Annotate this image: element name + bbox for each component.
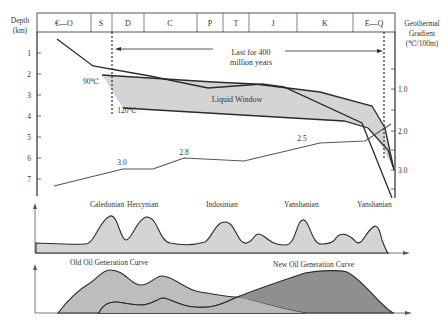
old-oil-curve-label: Old Oil Generation Curve — [70, 258, 149, 267]
burial-history-diagram: Depth (km) €—O S D C P T J K E—Q Geother… — [0, 0, 448, 327]
gradient-axis: 1.0 2.0 3.0 — [391, 32, 408, 198]
period-carboniferous: C — [167, 19, 172, 28]
period-permian: P — [208, 19, 213, 28]
depth-tick-5: 5 — [27, 133, 31, 142]
period-header-table: €—O S D C P T J K E—Q — [37, 13, 395, 32]
depth-tick-7: 7 — [27, 175, 31, 184]
gradient-tick-3-0: 3.0 — [398, 166, 408, 175]
period-cretaceous: K — [322, 19, 328, 28]
depth-tick-2: 2 — [27, 70, 31, 79]
temp-label-90c: 90℃ — [83, 77, 99, 86]
period-triassic: T — [234, 19, 239, 28]
duration-label-line2: million years — [230, 58, 272, 67]
liquid-window-fill — [102, 75, 393, 167]
period-jurassic: J — [271, 19, 274, 28]
depth-axis-title-line1: Depth — [11, 16, 30, 25]
depth-axis-title-line2: (km) — [13, 26, 28, 35]
gradient-label-2-8: 2.8 — [179, 148, 189, 157]
duration-arrow-right — [285, 49, 383, 53]
gradient-axis-title: Geothermal Gradient (℃/100m) — [404, 19, 439, 48]
tectonic-activity-curve — [36, 216, 388, 253]
event-hercynian: Hercynian — [127, 200, 158, 209]
gradient-axis-title-line2: Gradient — [409, 29, 436, 38]
liquid-window-label: Liquid Window — [212, 95, 263, 104]
period-cambrian-ordovician: €—O — [55, 19, 73, 28]
depth-tick-1: 1 — [27, 49, 31, 58]
new-oil-curve-label: New Oil Generation Curve — [273, 260, 355, 269]
event-caledonian: Caledonian — [90, 200, 124, 209]
geothermal-gradient-curve — [54, 124, 391, 186]
gradient-label-2-5: 2.5 — [297, 134, 307, 143]
event-indosinian: Indosinian — [206, 200, 238, 209]
depth-axis: 1 2 3 4 5 6 7 — [27, 32, 41, 196]
period-silurian: S — [99, 19, 103, 28]
temp-label-120c: 120℃ — [117, 106, 137, 115]
gradient-tick-1-0: 1.0 — [398, 85, 408, 94]
gradient-tick-2-0: 2.0 — [398, 127, 408, 136]
liquid-window-band — [102, 75, 394, 170]
depth-tick-6: 6 — [27, 154, 31, 163]
gradient-axis-title-line1: Geothermal — [404, 19, 439, 28]
gradient-label-3-0: 3.0 — [117, 158, 127, 167]
tectonic-events-panel: Caledonian Hercynian Indosinian Yanshani… — [33, 200, 409, 255]
period-devonian: D — [125, 19, 131, 28]
gradient-axis-title-line3: (℃/100m) — [406, 39, 439, 48]
period-paleogene-quaternary: E—Q — [365, 19, 384, 28]
depth-tick-4: 4 — [27, 112, 31, 121]
event-yanshanian-2: Yanshanian — [357, 200, 392, 209]
duration-label-line1: Last for 400 — [231, 48, 270, 57]
depth-tick-3: 3 — [27, 91, 31, 100]
depth-axis-title: Depth (km) — [11, 16, 30, 35]
oil-generation-panel: Old Oil Generation Curve New Oil Generat… — [33, 258, 411, 315]
duration-arrow-left — [115, 47, 213, 51]
event-yanshanian-1: Yanshanian — [284, 200, 319, 209]
